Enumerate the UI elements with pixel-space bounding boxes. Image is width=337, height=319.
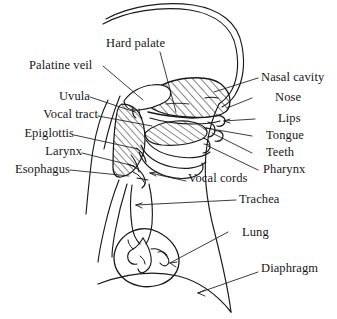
label-nasal-cavity: Nasal cavity bbox=[261, 71, 324, 84]
label-teeth: Teeth bbox=[266, 146, 294, 159]
label-hard-palate: Hard palate bbox=[106, 37, 165, 50]
label-esophagus: Esophagus bbox=[0, 163, 70, 176]
leader-teeth bbox=[212, 133, 252, 153]
label-lips: Lips bbox=[278, 112, 301, 125]
tongue-region bbox=[145, 121, 207, 145]
label-uvula: Uvula bbox=[0, 90, 90, 103]
diaphragm-region bbox=[98, 273, 231, 312]
label-nose: Nose bbox=[275, 91, 301, 104]
label-trachea: Trachea bbox=[239, 193, 280, 206]
label-lung: Lung bbox=[242, 226, 269, 239]
lung-region bbox=[114, 229, 179, 287]
leader-vocal-cords bbox=[150, 173, 186, 181]
label-palatine-veil: Palatine veil bbox=[29, 59, 92, 72]
label-larynx: Larynx bbox=[0, 145, 82, 158]
leader-palatine-veil bbox=[103, 66, 143, 100]
label-vocal-cords: Vocal cords bbox=[188, 172, 248, 185]
esophagus-region bbox=[98, 180, 127, 262]
leader-trachea bbox=[136, 200, 236, 205]
label-pharynx: Pharynx bbox=[263, 163, 305, 176]
leader-pharynx bbox=[208, 146, 258, 170]
anatomical-diagram: Hard palate Palatine veil Uvula Vocal tr… bbox=[0, 0, 337, 319]
pharynx-region bbox=[113, 104, 145, 177]
leader-nose bbox=[227, 98, 252, 108]
lips-region bbox=[214, 116, 225, 142]
label-epiglottis: Epiglottis bbox=[0, 127, 74, 140]
trachea-region bbox=[131, 184, 153, 244]
label-diaphragm: Diaphragm bbox=[261, 262, 318, 275]
label-vocal-tract: Vocal tract bbox=[0, 108, 98, 121]
leader-lung bbox=[170, 232, 228, 263]
label-tongue: Tongue bbox=[266, 129, 304, 142]
